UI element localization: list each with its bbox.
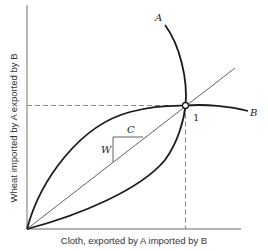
offer-curve-diagram: A B 1 W C Cloth, exported by A imported … (0, 0, 268, 251)
equilibrium-label: 1 (193, 112, 199, 123)
offer-curve-a (27, 25, 186, 229)
offer-curve-b (27, 105, 248, 229)
c-label: C (127, 124, 135, 135)
x-axis-label: Cloth, exported by A imported by B (61, 235, 207, 246)
terms-of-trade-line (27, 68, 235, 229)
equilibrium-point (183, 103, 189, 109)
curve-b-label: B (249, 107, 257, 118)
w-label: W (101, 144, 112, 155)
y-axis-label: Wheat imported by A exported by B (8, 54, 19, 203)
curve-a-label: A (154, 12, 162, 23)
